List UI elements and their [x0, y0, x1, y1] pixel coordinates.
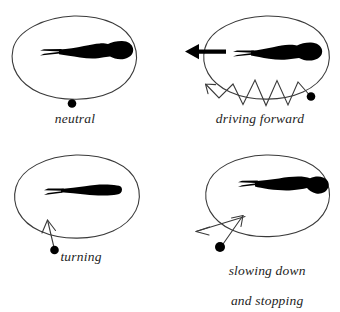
caption-slowing-line-2: and stopping	[231, 293, 304, 308]
panel-slowing-down	[196, 155, 329, 252]
caption-slowing-line-1: slowing down	[229, 263, 306, 278]
caption-turning: turning	[6, 249, 156, 264]
arena-ellipse-slowing	[206, 155, 330, 237]
caption-neutral: neutral	[0, 111, 150, 126]
caption-slowing-down-and-stopping: slowing down and stopping	[182, 248, 338, 312]
tadpole-silhouette-slowing	[238, 177, 329, 194]
panel-turning	[15, 155, 140, 254]
tadpole-silhouette-driving	[233, 42, 322, 60]
caption-driving-forward: driving forward	[182, 111, 338, 126]
panel-driving-forward	[185, 16, 329, 106]
tadpole-silhouette-neutral	[40, 41, 133, 59]
crossed-open-arrows-icon	[196, 216, 245, 246]
panel-neutral	[12, 16, 136, 108]
arena-ellipse-turning	[15, 155, 140, 238]
dot-marker-neutral	[68, 99, 77, 108]
tadpole-silhouette-turning	[44, 185, 122, 196]
dot-marker-driving	[307, 92, 316, 101]
zigzag-trace-icon	[206, 80, 309, 106]
